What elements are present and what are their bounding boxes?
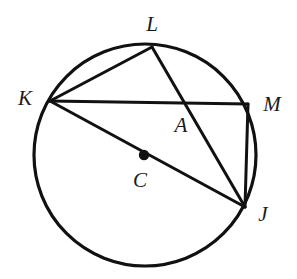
label-K: K	[18, 88, 32, 109]
segment-MJ	[245, 104, 248, 207]
segment-KL	[50, 47, 152, 101]
geometry-figure: LKMACJ	[0, 0, 297, 279]
label-A: A	[175, 115, 188, 136]
label-L: L	[146, 14, 158, 35]
geometry-canvas	[0, 0, 297, 279]
center-point-C	[139, 150, 149, 160]
label-M: M	[263, 94, 281, 115]
label-C: C	[133, 170, 147, 191]
label-J: J	[258, 204, 267, 225]
segment-KM	[50, 101, 248, 104]
